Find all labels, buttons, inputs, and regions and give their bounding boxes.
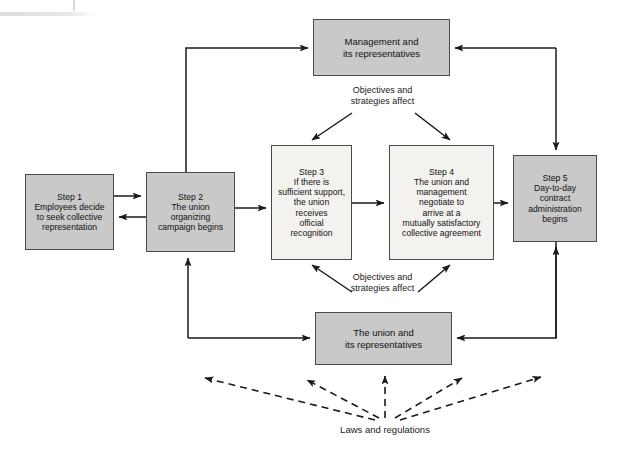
node-management-label: Management and its representatives xyxy=(317,36,446,58)
node-management-and-representatives[interactable]: Management and its representatives xyxy=(313,19,450,76)
edge-management-to-step3 xyxy=(312,113,352,140)
edge-laws-far-right xyxy=(400,377,541,420)
node-union-label: The union and its representatives xyxy=(319,327,448,349)
label-objectives-strategies-bottom: Objectives and strategies affect xyxy=(325,272,440,295)
edge-laws-far-left xyxy=(205,378,375,420)
edge-management-to-step4 xyxy=(415,113,450,140)
diagram-canvas: Management and its representatives The u… xyxy=(0,0,617,456)
node-step-2[interactable]: Step 2 The union organizing campaign beg… xyxy=(146,172,235,252)
node-step-1[interactable]: Step 1 Employees decide to seek collecti… xyxy=(25,174,114,250)
node-step-4[interactable]: Step 4 The union and management negotiat… xyxy=(389,145,494,260)
scan-artifact xyxy=(0,12,96,16)
node-step-4-label: Step 4 The union and management negotiat… xyxy=(393,167,490,238)
node-step-5-label: Step 5 Day-to-day contract administratio… xyxy=(517,173,593,224)
node-step-2-label: Step 2 The union organizing campaign beg… xyxy=(150,192,231,233)
node-step-1-label: Step 1 Employees decide to seek collecti… xyxy=(29,192,110,233)
edge-laws-left xyxy=(307,380,379,418)
label-objectives-strategies-top: Objectives and strategies affect xyxy=(325,85,440,108)
node-step-3[interactable]: Step 3 If there is sufficient support, t… xyxy=(271,145,352,260)
label-laws-and-regulations: Laws and regulations xyxy=(320,424,450,436)
edge-laws-right xyxy=(395,378,462,418)
node-step-3-label: Step 3 If there is sufficient support, t… xyxy=(275,167,348,238)
node-union-and-representatives[interactable]: The union and its representatives xyxy=(315,312,452,365)
scan-tick-mark xyxy=(73,0,75,11)
node-step-5[interactable]: Step 5 Day-to-day contract administratio… xyxy=(513,155,597,242)
